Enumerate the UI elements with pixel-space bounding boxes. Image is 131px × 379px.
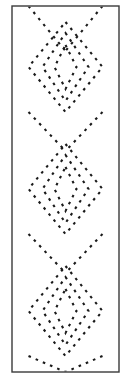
diamond-lattice-pattern	[0, 0, 131, 379]
panel-border	[12, 6, 119, 372]
figure-root	[0, 0, 131, 379]
